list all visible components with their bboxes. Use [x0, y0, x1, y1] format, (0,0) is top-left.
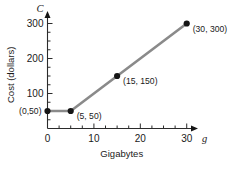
x-axis-title: Gigabytes — [100, 148, 143, 159]
y-axis-arrowhead — [45, 11, 51, 18]
x-axis-variable-label: g — [202, 133, 207, 144]
x-axis-tick-label: 0 — [45, 133, 51, 144]
y-axis-variable-label: C — [37, 3, 45, 14]
data-point-marker — [184, 20, 190, 26]
x-axis-tick-label: 30 — [181, 133, 193, 144]
cost-vs-gigabytes-chart: 100200300 0102030 (0,50)(5, 50)(15, 150)… — [0, 0, 243, 170]
x-axis-ticks — [59, 124, 187, 129]
x-axis-tick-label: 20 — [135, 133, 147, 144]
data-points-group — [44, 20, 189, 114]
y-axis-tick-label: 100 — [27, 88, 44, 99]
y-axis-ticks — [48, 24, 53, 120]
data-point-label: (5, 50) — [77, 111, 102, 121]
data-point-label: (15, 150) — [123, 76, 158, 86]
y-axis-tick-label: 200 — [27, 53, 44, 64]
data-series-group — [48, 24, 187, 112]
data-point-label: (0,50) — [19, 106, 42, 116]
data-point-marker — [44, 108, 50, 114]
data-point-marker — [68, 108, 74, 114]
y-axis-tick-label: 300 — [27, 18, 44, 29]
data-point-label: (30, 300) — [193, 24, 228, 34]
x-axis-tick-labels: 0102030 — [45, 133, 193, 144]
y-axis-title: Cost (dollars) — [5, 47, 16, 104]
data-point-marker — [114, 73, 120, 79]
data-line — [48, 24, 187, 112]
x-axis-arrowhead — [191, 126, 198, 132]
chart-canvas: 100200300 0102030 (0,50)(5, 50)(15, 150)… — [0, 0, 243, 170]
y-axis-tick-labels: 100200300 — [27, 18, 44, 99]
x-axis-tick-label: 10 — [88, 133, 100, 144]
